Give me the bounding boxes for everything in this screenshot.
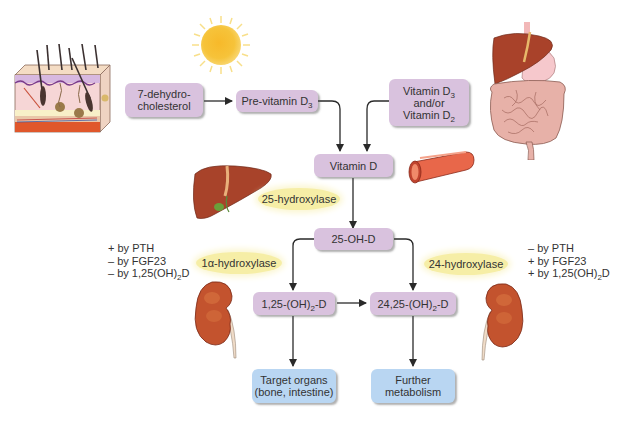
node-7-dehydrocholesterol: 7-dehydro-cholesterol (125, 83, 203, 117)
regulation-line: + by FGF23 (528, 255, 586, 267)
node-previtamin-d3: Pre-vitamin D3 (236, 90, 318, 112)
node-label: metabolism (385, 386, 441, 398)
regulation-line: D (182, 267, 190, 279)
digestive-tract-icon (486, 20, 570, 160)
regulation-line: D (602, 267, 610, 279)
blood-vessel-icon (406, 148, 476, 188)
node-dietary-vitamin-d: Vitamin D3 and/or Vitamin D2 (389, 79, 469, 126)
node-label: (bone, intestine) (255, 386, 334, 398)
subscript: 2 (451, 115, 455, 124)
enzyme-24-hydroxylase: 24-hydroxylase (424, 253, 508, 275)
liver-icon (191, 162, 273, 220)
node-label: 1,25-(OH) (262, 298, 311, 310)
node-label: and/or (413, 97, 444, 109)
subscript: 3 (308, 101, 312, 110)
regulation-line: + by 1,25(OH) (528, 267, 597, 279)
node-24-25-oh2-d: 24,25-(OH)2-D (370, 292, 456, 315)
node-label: Further (395, 374, 430, 386)
node-label: 7-dehydro- (137, 88, 190, 100)
node-25-oh-d: 25-OH-D (314, 228, 393, 250)
node-label: -D (437, 298, 449, 310)
regulation-1alpha: + by PTH – by FGF23 – by 1,25(OH)2D (108, 242, 190, 280)
regulation-line: – by 1,25(OH) (108, 267, 177, 279)
regulation-24: – by PTH + by FGF23 + by 1,25(OH)2D (528, 242, 610, 280)
node-label: 25-OH-D (331, 233, 375, 245)
node-label: Pre-vitamin D (241, 95, 308, 107)
node-label: 24,25-(OH) (377, 298, 432, 310)
skin-icon (12, 40, 112, 135)
enzyme-label: 24-hydroxylase (429, 258, 504, 270)
regulation-line: + by PTH (108, 242, 154, 254)
node-label: cholesterol (137, 100, 190, 112)
enzyme-label: 25-hydroxylase (262, 193, 337, 205)
node-label: -D (315, 298, 327, 310)
node-label: Target organs (260, 374, 327, 386)
node-further-metabolism: Furthermetabolism (371, 369, 455, 403)
node-label: Vitamin D (403, 109, 450, 121)
regulation-line: – by PTH (528, 242, 574, 254)
enzyme-1alpha-hydroxylase: 1α-hydroxylase (196, 252, 282, 274)
enzyme-25-hydroxylase: 25-hydroxylase (258, 188, 340, 210)
node-1-25-oh2-d: 1,25-(OH)2-D (253, 292, 335, 315)
node-vitamin-d: Vitamin D (314, 154, 393, 177)
kidney-icon-right (472, 282, 524, 364)
node-label: Vitamin D (330, 160, 377, 172)
kidney-icon-left (194, 280, 246, 362)
node-target-organs: Target organs(bone, intestine) (252, 369, 336, 403)
node-label: Vitamin D (403, 85, 450, 97)
regulation-line: – by FGF23 (108, 255, 166, 267)
subscript: 3 (451, 91, 455, 100)
sun-icon (190, 14, 252, 76)
enzyme-label: 1α-hydroxylase (202, 257, 277, 269)
